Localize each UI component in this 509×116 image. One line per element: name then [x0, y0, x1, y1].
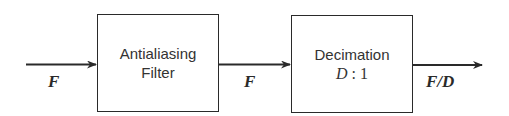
decimation-label: Decimation: [314, 45, 389, 64]
input-signal-label: F: [48, 72, 59, 92]
output-signal-label: F/D: [426, 72, 454, 92]
signal-arrows: [0, 0, 509, 116]
decimation-ratio-value: : 1: [352, 65, 368, 82]
decimation-ratio: D : 1: [336, 64, 368, 83]
antialiasing-filter-block: Antialiasing Filter: [97, 14, 219, 112]
decimation-factor-symbol: D: [336, 65, 348, 82]
antialiasing-filter-label-line1: Antialiasing: [120, 44, 197, 63]
filtered-signal-label: F: [244, 72, 255, 92]
decimation-block-diagram: Antialiasing Filter Decimation D : 1 F F…: [0, 0, 509, 116]
decimation-block: Decimation D : 1: [291, 15, 413, 113]
antialiasing-filter-label-line2: Filter: [141, 63, 174, 82]
